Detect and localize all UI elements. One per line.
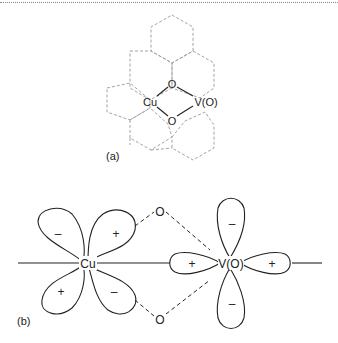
cu-lobe-sign-lower-right: – xyxy=(111,285,118,299)
hexagon-upper-left xyxy=(130,51,172,100)
v-lobe-sign-bottom: – xyxy=(229,297,236,311)
panel-b-vanadium: V(O) xyxy=(218,257,243,271)
hexagon-lattice xyxy=(107,15,214,160)
panel-a-oxygen-top: O xyxy=(168,78,177,90)
panel-b-label: (b) xyxy=(17,315,30,327)
panel-a-oxygen-bottom: O xyxy=(168,115,177,127)
hexagon-upper-right xyxy=(172,51,214,98)
cu-lobe-sign-lower-left: + xyxy=(57,285,64,299)
panel-b: – + + – Cu – + + – V(O) O O xyxy=(17,198,322,328)
diagram-canvas: O Cu V(O) O (a) – + + – Cu – xyxy=(0,0,338,343)
v-lobe-sign-right: + xyxy=(268,257,275,271)
cu-lobe-sign-upper-right: + xyxy=(112,227,119,241)
hexagon-top xyxy=(151,15,193,63)
cu-orbital: – + + – Cu xyxy=(38,208,136,314)
panel-a-label: (a) xyxy=(106,150,119,162)
hexagon-lower-right xyxy=(172,112,214,160)
panel-a-copper: Cu xyxy=(143,96,157,108)
panel-a-vanadium: V(O) xyxy=(194,96,217,108)
panel-b-oxygen-top: O xyxy=(155,205,164,219)
panel-b-copper: Cu xyxy=(80,257,95,271)
panel-b-oxygen-bottom: O xyxy=(155,313,164,327)
v-orbital: – + + – V(O) xyxy=(170,198,291,328)
v-lobe-sign-top: – xyxy=(229,217,236,231)
cu-lobe-sign-upper-left: – xyxy=(55,227,62,241)
v-lobe-sign-left: + xyxy=(188,257,195,271)
